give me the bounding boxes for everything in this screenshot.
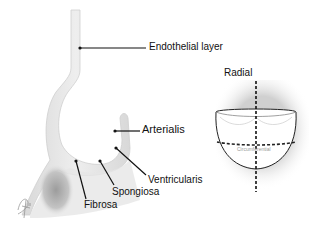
spongiosa-label: Spongiosa <box>112 187 159 197</box>
fibrosa-shading <box>38 164 74 216</box>
arterialis-label: Arterialis <box>142 124 185 135</box>
ventricularis-label: Ventricularis <box>148 175 202 185</box>
endothelial-layer-label: Endothelial layer <box>149 42 223 52</box>
cusp-illustration <box>215 80 309 192</box>
fibrosa-label: Fibrosa <box>84 200 117 210</box>
radial-label: Radial <box>224 68 252 78</box>
circumferential-label: Circumferential <box>237 147 271 152</box>
